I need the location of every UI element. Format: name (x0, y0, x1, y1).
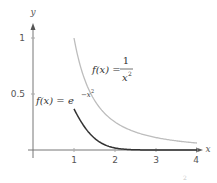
annotation-gaussian-exponent-power: 2 (91, 88, 94, 94)
y-tick-label-1: 1 (19, 33, 25, 43)
curve-gaussian (74, 109, 197, 150)
x-tick-label-3: 3 (153, 155, 159, 165)
y-tick-label-0.5: 0.5 (11, 89, 25, 99)
x-axis-label: x (205, 144, 210, 154)
annotation-gaussian: f(x) = e −x 2 (35, 88, 94, 106)
y-axis-arrow-icon (31, 23, 36, 30)
annotation-reciprocal-numerator: 1 (123, 55, 129, 66)
annotation-reciprocal-lhs: f(x) = (91, 64, 121, 75)
annotation-reciprocal: f(x) = 1 x 2 (91, 55, 133, 83)
annotation-gaussian-lhs: f(x) = e (35, 95, 74, 106)
x-tick-label-2: 2 (112, 155, 118, 165)
annotation-gaussian-exponent: −x (81, 91, 91, 99)
y-axis-label: y (29, 7, 36, 17)
chart: 1 2 3 4 0.5 1 y x f(x) = 1 x 2 f(x) = e … (0, 0, 217, 183)
x-tick-label-1: 1 (71, 155, 77, 165)
annotation-reciprocal-exponent: 2 (128, 70, 132, 77)
x-tick-label-4: 4 (193, 155, 199, 165)
cropped-text-fragment: 2 (183, 174, 187, 181)
